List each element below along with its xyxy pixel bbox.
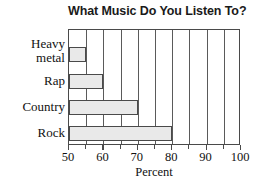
bar [69,74,103,89]
chart-title: What Music Do You Listen To? [68,4,240,18]
x-axis-title: Percent [68,165,240,180]
x-tick-label: 80 [165,150,178,165]
bar-chart: What Music Do You Listen To? Heavy metal… [0,0,256,183]
bar [69,100,138,115]
x-tick-label: 100 [231,150,250,165]
bars-group [69,30,239,144]
category-label: Rap [0,74,65,88]
category-label: Country [0,100,65,114]
category-axis-labels: Heavy metalRapCountryRock [0,29,65,145]
axis-tick [223,145,224,149]
axis-tick [188,145,189,149]
axis-tick [85,145,86,149]
x-tick-label: 70 [131,150,144,165]
axis-tick [120,145,121,149]
x-tick-label: 50 [62,150,75,165]
plot-area [68,29,240,145]
x-tick-label: 90 [199,150,212,165]
bar [69,126,172,141]
x-axis-tick-labels: 5060708090100 [68,150,240,166]
bar [69,47,86,62]
category-label: Rock [0,126,65,140]
x-tick-label: 60 [96,150,109,165]
category-label: Heavy metal [0,37,65,64]
axis-tick [154,145,155,149]
